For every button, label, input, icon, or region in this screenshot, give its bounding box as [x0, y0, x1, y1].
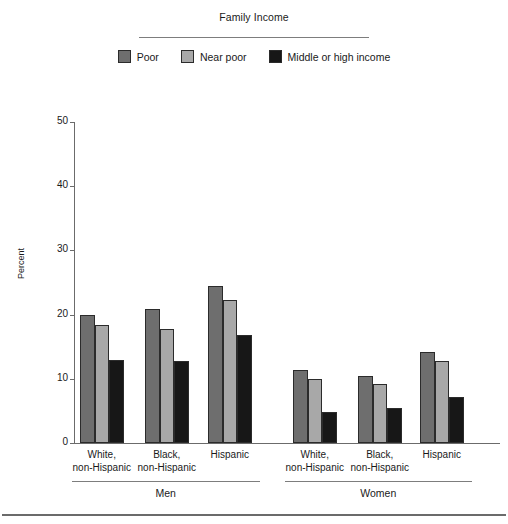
- x-axis-category-label-line: Hispanic: [185, 449, 275, 462]
- bar: [95, 325, 110, 443]
- x-axis-category-label: Hispanic: [397, 449, 487, 462]
- bar: [435, 361, 450, 443]
- y-axis-title: Percent: [16, 209, 26, 279]
- y-axis-tick-label-wrap: 0: [42, 437, 79, 438]
- bar: [174, 361, 189, 443]
- y-axis-tick-label: 10: [42, 373, 68, 383]
- bar: [80, 315, 95, 443]
- bar: [208, 286, 223, 443]
- y-axis-tick-label-wrap: 10: [42, 373, 79, 374]
- bar: [109, 360, 124, 443]
- x-axis-category-label-line: Hispanic: [397, 449, 487, 462]
- bar: [160, 329, 175, 443]
- bar: [420, 352, 435, 443]
- y-axis-tick-label: 20: [42, 309, 68, 319]
- y-axis-tick-label-wrap: 40: [42, 180, 79, 181]
- x-axis-category-label-line: non-Hispanic: [335, 462, 425, 475]
- y-axis-tick-label: 40: [42, 180, 68, 190]
- bar: [308, 379, 323, 443]
- footer-divider: [2, 514, 506, 516]
- bar: [322, 412, 337, 443]
- y-axis-tick-label-wrap: 50: [42, 116, 79, 117]
- group-bracket-rule: [285, 481, 472, 482]
- bar: [293, 370, 308, 443]
- bar: [237, 335, 252, 443]
- bar: [373, 384, 388, 443]
- bar: [449, 397, 464, 443]
- chart-plot-area: Percent 01020304050 White,non-HispanicBl…: [0, 0, 508, 524]
- bars-layer: [75, 122, 500, 443]
- x-axis-category-label: Hispanic: [185, 449, 275, 462]
- bar: [223, 300, 238, 443]
- bar: [387, 408, 402, 443]
- group-bracket-rule: [72, 481, 260, 482]
- x-axis-category-label-line: non-Hispanic: [122, 462, 212, 475]
- bar: [358, 376, 373, 443]
- group-label: Men: [72, 487, 260, 499]
- y-axis-tick-label-wrap: 30: [42, 244, 79, 245]
- x-axis-line: [74, 443, 500, 444]
- y-axis-tick-label: 50: [42, 116, 68, 126]
- y-axis-tick-label: 0: [42, 437, 68, 447]
- y-axis-tick: [70, 443, 75, 444]
- y-axis-tick-label: 30: [42, 244, 68, 254]
- group-label: Women: [285, 487, 472, 499]
- y-axis-tick-label-wrap: 20: [42, 309, 79, 310]
- bar: [145, 309, 160, 443]
